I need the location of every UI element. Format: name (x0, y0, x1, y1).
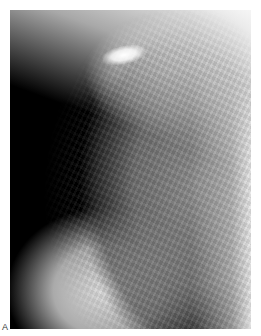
panel-label: A (2, 322, 8, 332)
mammogram-image (10, 10, 251, 329)
